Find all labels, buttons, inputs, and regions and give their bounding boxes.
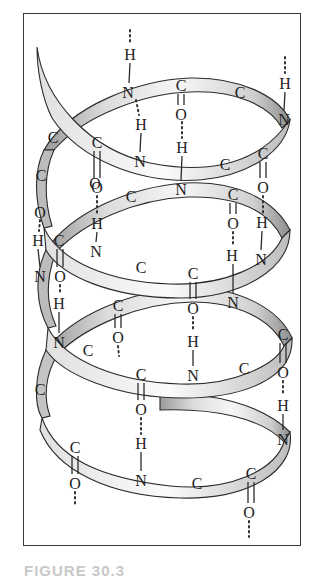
- atom-label: O: [89, 175, 101, 192]
- atom-carbon: C: [70, 439, 81, 456]
- atom-oxygen: O: [257, 179, 269, 196]
- alpha-helix-diagram: HNCOCHNHCCHNCCCONOCCOOOHHHCNHNNOCCNHCOOH…: [0, 0, 323, 576]
- atom-label: N: [122, 84, 134, 101]
- atom-carbon: C: [83, 342, 94, 359]
- atom-hydrogen: H: [277, 397, 289, 414]
- atom-label: N: [135, 472, 147, 489]
- atom-label: O: [54, 268, 66, 285]
- atom-carbon: C: [258, 145, 269, 162]
- atom-label: H: [135, 435, 147, 452]
- atom-nitrogen: N: [34, 268, 46, 285]
- atom-carbon: C: [228, 186, 239, 203]
- atom-hydrogen: H: [187, 333, 199, 350]
- atom-oxygen: O: [175, 106, 187, 123]
- atom-hydrogen: H: [226, 247, 238, 264]
- atom-nitrogen: N: [122, 84, 134, 101]
- atom-nitrogen: N: [277, 431, 289, 448]
- atom-nitrogen: N: [187, 367, 199, 384]
- atom-carbon: C: [192, 475, 203, 492]
- atom-label: N: [90, 243, 102, 260]
- atom-label: C: [176, 77, 187, 94]
- atom-label: N: [175, 181, 187, 198]
- atom-oxygen: O: [89, 175, 101, 192]
- atom-nitrogen: N: [175, 181, 187, 198]
- atom-label: N: [227, 294, 239, 311]
- atom-label: C: [235, 84, 246, 101]
- atom-label: C: [188, 265, 199, 282]
- atom-label: N: [255, 251, 267, 268]
- atom-hydrogen: H: [135, 116, 147, 133]
- atom-label: C: [258, 145, 269, 162]
- atom-label: C: [220, 156, 231, 173]
- atom-oxygen: O: [34, 204, 46, 221]
- atom-oxygen: O: [227, 215, 239, 232]
- atom-label: C: [278, 326, 289, 343]
- atom-label: H: [277, 397, 289, 414]
- atom-carbon: C: [176, 77, 187, 94]
- atom-label: O: [243, 504, 255, 521]
- atom-label: C: [192, 475, 203, 492]
- atom-label: H: [176, 139, 188, 156]
- atom-carbon: C: [188, 265, 199, 282]
- atom-nitrogen: N: [135, 472, 147, 489]
- atom-oxygen: O: [277, 364, 289, 381]
- atom-label: H: [53, 295, 65, 312]
- atom-label: O: [227, 215, 239, 232]
- atom-label: N: [278, 111, 290, 128]
- atom-label: O: [135, 401, 147, 418]
- atom-hydrogen: H: [279, 75, 291, 92]
- atom-label: O: [257, 179, 269, 196]
- atom-label: C: [239, 360, 250, 377]
- atom-carbon: C: [278, 326, 289, 343]
- atom-label: H: [279, 75, 291, 92]
- atom-label: O: [112, 329, 124, 346]
- atom-nitrogen: N: [90, 243, 102, 260]
- atom-label: N: [187, 367, 199, 384]
- atom-label: H: [91, 215, 103, 232]
- atom-label: H: [256, 214, 268, 231]
- atom-carbon: C: [220, 156, 231, 173]
- atom-label: H: [124, 46, 136, 63]
- atom-carbon: C: [136, 366, 147, 383]
- atom-label: C: [92, 134, 103, 151]
- atom-hydrogen: H: [91, 215, 103, 232]
- atom-carbon: C: [235, 84, 246, 101]
- atom-label: O: [175, 106, 187, 123]
- atom-label: C: [36, 167, 47, 184]
- atom-carbon: C: [54, 232, 65, 249]
- atom-label: N: [277, 431, 289, 448]
- atom-carbon: C: [113, 297, 124, 314]
- atom-carbon: C: [246, 465, 257, 482]
- figure-caption: FIGURE 30.3: [24, 562, 125, 576]
- atom-label: O: [277, 364, 289, 381]
- atom-oxygen: O: [135, 401, 147, 418]
- atom-carbon: C: [35, 381, 46, 398]
- atom-label: O: [69, 475, 81, 492]
- atom-carbon: C: [126, 188, 137, 205]
- atom-nitrogen: N: [227, 294, 239, 311]
- atom-oxygen: O: [187, 300, 199, 317]
- atom-label: H: [226, 247, 238, 264]
- atom-label: C: [48, 129, 59, 146]
- atom-label: H: [135, 116, 147, 133]
- atom-label: C: [136, 366, 147, 383]
- atom-carbon: C: [239, 360, 250, 377]
- atom-label: O: [187, 300, 199, 317]
- atom-nitrogen: N: [278, 111, 290, 128]
- atom-hydrogen: H: [124, 46, 136, 63]
- atom-label: H: [187, 333, 199, 350]
- atom-oxygen: O: [69, 475, 81, 492]
- atom-carbon: C: [92, 134, 103, 151]
- atom-oxygen: O: [112, 329, 124, 346]
- atom-hydrogen: H: [53, 295, 65, 312]
- atom-nitrogen: N: [255, 251, 267, 268]
- atom-label: C: [113, 297, 124, 314]
- atom-label: C: [136, 259, 147, 276]
- atom-carbon: C: [48, 129, 59, 146]
- atom-label: C: [70, 439, 81, 456]
- atom-label: H: [32, 232, 44, 249]
- helix-ribbon-front: [37, 47, 292, 498]
- atom-label: C: [228, 186, 239, 203]
- atom-label: C: [54, 232, 65, 249]
- atom-label: O: [34, 204, 46, 221]
